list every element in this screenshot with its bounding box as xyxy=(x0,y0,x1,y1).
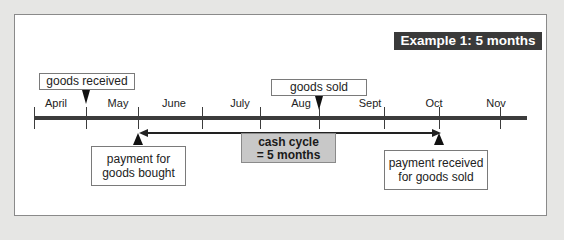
payment-for-goods-bought-label: payment for goods bought xyxy=(91,146,186,186)
tick-aug xyxy=(260,107,261,129)
tick-april-start xyxy=(34,107,35,129)
payment-bought-line2: goods bought xyxy=(92,166,185,180)
tick-goods-sold xyxy=(319,107,320,129)
goods-sold-text: goods sold xyxy=(290,80,348,94)
payment-received-line2: for goods sold xyxy=(385,170,487,184)
month-label-sept: Sept xyxy=(359,97,382,109)
tick-june xyxy=(138,107,139,129)
month-label-april: April xyxy=(45,97,67,109)
goods-sold-label: goods sold xyxy=(271,79,367,96)
month-label-may: May xyxy=(108,97,129,109)
goods-received-label: goods received xyxy=(39,73,135,90)
goods-received-marker-icon xyxy=(82,90,90,104)
cash-cycle-box: cash cycle = 5 months xyxy=(241,133,336,163)
payment-bought-marker-icon xyxy=(133,133,143,145)
payment-received-marker-icon xyxy=(434,133,444,145)
goods-received-text: goods received xyxy=(46,74,127,88)
month-label-june: June xyxy=(162,97,186,109)
cash-cycle-line2: = 5 months xyxy=(242,149,335,162)
tick-oct xyxy=(439,107,440,129)
payment-received-line1: payment received xyxy=(385,156,487,170)
month-label-july: July xyxy=(230,97,250,109)
tick-goods-received xyxy=(86,107,87,129)
example-title-badge: Example 1: 5 months xyxy=(394,32,542,50)
payment-received-label: payment received for goods sold xyxy=(384,150,488,190)
tick-nov xyxy=(500,107,501,129)
payment-bought-line1: payment for xyxy=(92,152,185,166)
month-label-aug: Aug xyxy=(291,97,311,109)
tick-july xyxy=(202,107,203,129)
tick-sept xyxy=(384,107,385,129)
timeline-bar xyxy=(34,116,527,120)
month-label-nov: Nov xyxy=(486,97,506,109)
